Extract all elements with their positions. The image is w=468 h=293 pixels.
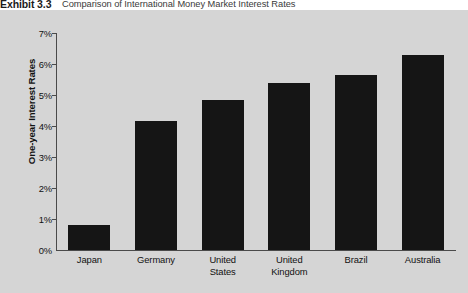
x-axis-tick-label: Japan (51, 254, 127, 266)
exhibit-caption: Comparison of International Money Market… (62, 0, 295, 9)
y-axis-tick-label: 2% (26, 183, 52, 194)
exhibit-title-row: Exhibit 3.3 Comparison of International … (0, 0, 468, 10)
y-axis-tick-label: 1% (26, 214, 52, 225)
bar (135, 121, 177, 250)
bar (402, 55, 444, 250)
y-axis-tick-labels: 7%6%5%4%3%2%1%0% (26, 10, 52, 293)
x-axis-tick-label-line: United (185, 254, 261, 266)
x-axis-tick-label-line: Kingdom (251, 266, 327, 278)
x-axis-tick-label: Germany (118, 254, 194, 266)
y-axis-tick-label: 0% (26, 245, 52, 256)
bar (268, 83, 310, 250)
exhibit-figure: Exhibit 3.3 Comparison of International … (0, 0, 468, 293)
y-axis-tick-label: 7% (26, 28, 52, 39)
y-axis-tick-label: 3% (26, 152, 52, 163)
bar (202, 100, 244, 250)
x-axis-tick-labels: JapanGermanyUnitedStatesUnitedKingdomBra… (56, 254, 456, 288)
x-axis-tick-label: UnitedStates (185, 254, 261, 277)
bar (68, 225, 110, 250)
chart-panel: One-year Interest Rates 7%6%5%4%3%2%1%0%… (0, 10, 468, 293)
x-axis-tick-label-line: Brazil (318, 254, 394, 266)
x-axis-tick-label-line: United (251, 254, 327, 266)
bar-series (56, 33, 456, 250)
y-axis-tick-label: 4% (26, 121, 52, 132)
x-axis-tick-label-line: Japan (51, 254, 127, 266)
x-axis-tick-label: Brazil (318, 254, 394, 266)
exhibit-number: Exhibit 3.3 (0, 0, 51, 10)
x-axis-line (56, 250, 456, 251)
x-axis-tick-label-line: Australia (385, 254, 461, 266)
bar (335, 75, 377, 250)
x-axis-tick-label-line: Germany (118, 254, 194, 266)
x-axis-tick-label: Australia (385, 254, 461, 266)
plot-area (56, 33, 456, 250)
x-axis-tick-label-line: States (185, 266, 261, 278)
y-axis-tick-label: 6% (26, 59, 52, 70)
x-axis-tick-label: UnitedKingdom (251, 254, 327, 277)
y-axis-tick-label: 5% (26, 90, 52, 101)
